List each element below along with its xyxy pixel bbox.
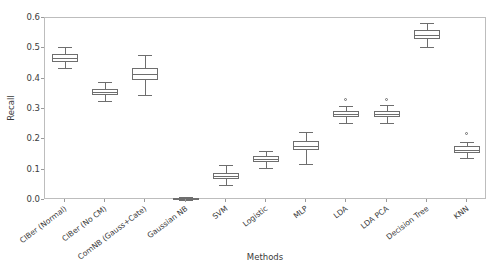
x-axis-tick-mark <box>64 199 65 202</box>
cap-lower <box>460 158 474 159</box>
x-axis-tick-mark <box>144 199 145 202</box>
y-axis-tick-mark <box>41 78 44 79</box>
x-axis-tick-label: LDA <box>332 204 350 220</box>
cap-lower <box>179 200 193 201</box>
cap-upper <box>460 142 474 143</box>
y-axis-tick-mark <box>41 199 44 200</box>
x-axis-tick-label: LDA PCA <box>358 204 389 231</box>
x-axis-tick-label: MLP <box>292 204 310 220</box>
median-line <box>173 198 199 199</box>
y-axis-tick-label: 0.5 <box>18 42 40 52</box>
y-axis-tick-label: 0.6 <box>18 12 40 22</box>
y-axis-tick-mark <box>41 169 44 170</box>
x-axis-tick-mark <box>466 199 467 202</box>
median-line <box>454 150 480 151</box>
x-axis-tick-label: KNN <box>452 204 470 221</box>
y-axis-tick-label: 0.3 <box>18 103 40 113</box>
y-axis-tick-label: 0.1 <box>18 164 40 174</box>
plot-frame <box>44 17 486 199</box>
x-axis-tick-label: Gaussian NB <box>145 204 189 240</box>
x-axis-tick-label: Decision Tree <box>384 204 430 242</box>
y-axis-tick-label: 0.4 <box>18 73 40 83</box>
x-axis-tick-label: CIBer (Normal) <box>18 204 68 245</box>
x-axis-tick-label: SVM <box>211 204 230 221</box>
x-axis-label: Methods <box>44 252 486 262</box>
y-axis-tick-label: 0.0 <box>18 194 40 204</box>
boxplot-knn <box>45 18 485 198</box>
plot-area <box>45 18 485 198</box>
y-axis-tick-mark <box>41 47 44 48</box>
boxplot-figure: 0.00.10.20.30.40.50.6 Recall CIBer (Norm… <box>0 0 488 278</box>
x-axis-tick-mark <box>185 199 186 202</box>
y-axis-label: Recall <box>6 95 16 120</box>
x-axis-tick-mark <box>265 199 266 202</box>
x-axis-tick-mark <box>225 199 226 202</box>
x-axis-tick-mark <box>386 199 387 202</box>
x-axis-tick-mark <box>426 199 427 202</box>
x-axis-tick-label: Logistic <box>241 204 270 229</box>
y-axis-tick-mark <box>41 17 44 18</box>
x-axis-tick-mark <box>305 199 306 202</box>
outlier-marker <box>465 132 468 135</box>
y-axis-tick-mark <box>41 138 44 139</box>
x-axis-tick-mark <box>104 199 105 202</box>
y-axis-tick-label: 0.2 <box>18 133 40 143</box>
y-axis-tick-mark <box>41 108 44 109</box>
x-axis-tick-mark <box>345 199 346 202</box>
